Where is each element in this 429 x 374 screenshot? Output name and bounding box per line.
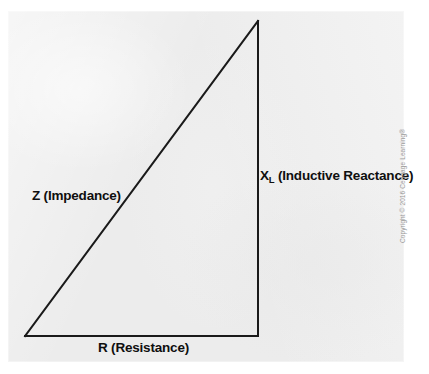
- copyright-notice: Copyright © 2016 Cengage Learning®: [399, 129, 406, 243]
- label-impedance: Z (Impedance): [32, 189, 121, 203]
- label-reactance-text: (Inductive Reactance): [274, 168, 413, 183]
- label-inductive-reactance: XL (Inductive Reactance): [260, 169, 413, 183]
- triangle-hypotenuse-line: [25, 21, 258, 336]
- label-reactance-subscript: L: [269, 174, 275, 185]
- impedance-triangle-graphic: [0, 0, 429, 374]
- label-reactance-symbol: X: [260, 168, 269, 183]
- figure-root: Z (Impedance) XL (Inductive Reactance) R…: [0, 0, 429, 374]
- label-resistance: R (Resistance): [98, 341, 189, 355]
